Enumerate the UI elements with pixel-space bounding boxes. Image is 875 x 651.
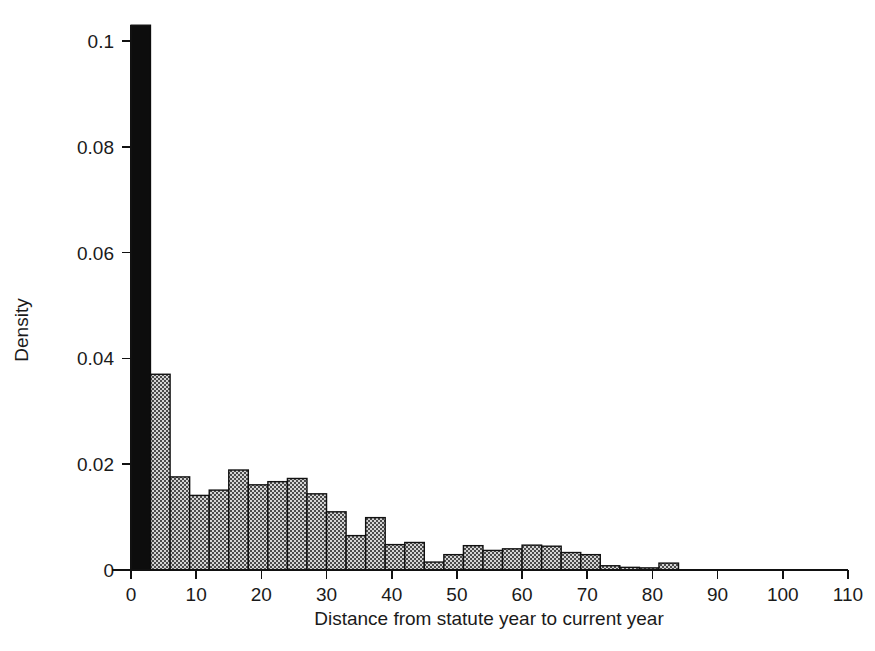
- x-tick-label: 50: [446, 584, 467, 605]
- x-axis-label: Distance from statute year to current ye…: [314, 608, 664, 629]
- histogram-bar: [209, 490, 229, 570]
- histogram-bar: [444, 555, 464, 570]
- y-tick-label: 0.08: [77, 137, 114, 158]
- histogram-bar: [503, 549, 523, 570]
- x-tick-label: 60: [512, 584, 533, 605]
- histogram-bar: [463, 546, 483, 570]
- histogram-bar: [346, 536, 366, 570]
- histogram-bar: [229, 470, 249, 570]
- histogram-bar: [483, 550, 503, 570]
- x-tick-label: 0: [126, 584, 137, 605]
- histogram-bar: [151, 374, 171, 570]
- histogram-bar: [327, 512, 347, 570]
- histogram-figure: 00.020.040.060.080.1 0102030405060708090…: [0, 0, 875, 651]
- histogram-bar: [366, 518, 386, 570]
- histogram-bar: [131, 25, 151, 570]
- x-tick-label: 20: [251, 584, 272, 605]
- histogram-bar: [522, 545, 542, 570]
- y-tick-label: 0.04: [77, 348, 114, 369]
- x-tick-label: 110: [833, 584, 863, 605]
- histogram-bar: [424, 562, 444, 570]
- y-tick-label: 0.02: [77, 454, 114, 475]
- histogram-bar: [287, 478, 307, 570]
- x-tick-label: 40: [381, 584, 402, 605]
- x-tick-label: 70: [577, 584, 598, 605]
- x-tick-label: 100: [767, 584, 799, 605]
- histogram-bar: [542, 546, 562, 570]
- histogram-bar: [268, 482, 288, 570]
- y-axis-label: Density: [11, 298, 32, 362]
- histogram-bar: [581, 555, 601, 570]
- y-tick-label: 0.1: [88, 31, 114, 52]
- histogram-bar: [405, 542, 425, 570]
- x-tick-label: 10: [186, 584, 207, 605]
- histogram-bar: [561, 553, 581, 570]
- x-tick-label: 30: [316, 584, 337, 605]
- histogram-bar: [385, 545, 405, 570]
- histogram-bar: [190, 495, 210, 570]
- histogram-bar: [248, 485, 268, 570]
- x-tick-label: 90: [707, 584, 728, 605]
- x-tick-label: 80: [642, 584, 663, 605]
- histogram-bar: [170, 477, 190, 570]
- histogram-bar: [307, 494, 327, 570]
- histogram-bar: [659, 563, 679, 570]
- y-tick-label: 0.06: [77, 243, 114, 264]
